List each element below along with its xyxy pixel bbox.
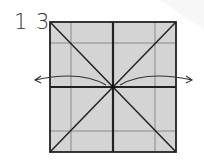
origami-diagram — [0, 0, 204, 163]
center-point — [111, 85, 115, 89]
